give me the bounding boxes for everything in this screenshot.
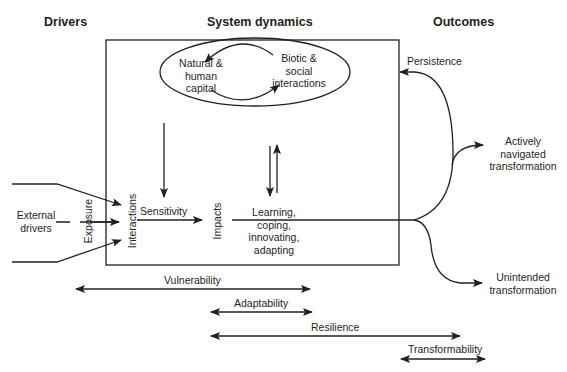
label-sensitivity: Sensitivity bbox=[140, 205, 187, 218]
label-adaptability: Adaptability bbox=[234, 297, 288, 310]
label-actively-navigated-transformation: Actively navigated transformation bbox=[487, 135, 559, 173]
label-biotic-social-interactions: Biotic & social interactions bbox=[266, 52, 332, 90]
driver-line-bottom bbox=[12, 240, 121, 262]
label-interactions: Interactions bbox=[126, 187, 138, 255]
label-learning-coping: Learning, coping, innovating, adapting bbox=[244, 206, 304, 256]
label-unintended-transformation: Unintended transformation bbox=[487, 271, 559, 296]
persistence-curve bbox=[400, 72, 453, 220]
label-impacts: Impacts bbox=[211, 197, 223, 245]
label-exposure: Exposure bbox=[82, 192, 94, 250]
label-natural-human-capital: Natural & human capital bbox=[173, 57, 229, 95]
actively-navigated-curve bbox=[452, 145, 483, 165]
label-transformability: Transformability bbox=[408, 343, 482, 356]
unintended-curve bbox=[414, 220, 482, 283]
header-outcomes: Outcomes bbox=[433, 15, 494, 29]
label-persistence: Persistence bbox=[407, 55, 462, 68]
header-drivers: Drivers bbox=[44, 15, 87, 29]
driver-line-top bbox=[12, 184, 121, 205]
label-external-drivers: External drivers bbox=[13, 209, 59, 234]
label-vulnerability: Vulnerability bbox=[164, 274, 221, 287]
label-resilience: Resilience bbox=[311, 321, 359, 334]
header-system-dynamics: System dynamics bbox=[207, 15, 313, 29]
